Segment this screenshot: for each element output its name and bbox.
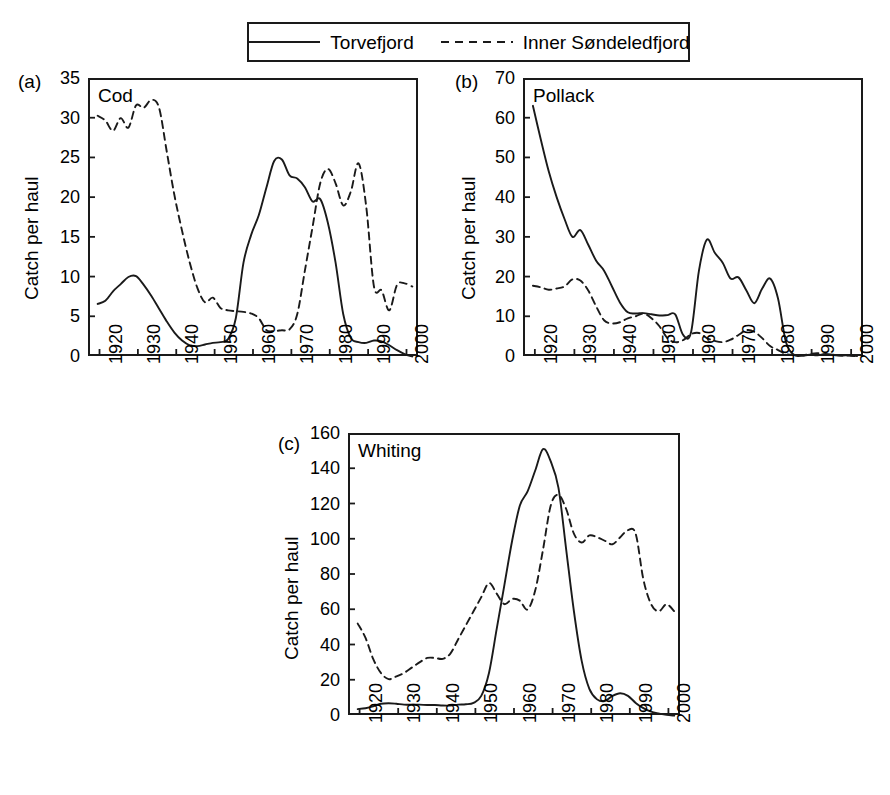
y-tick-label: 160 xyxy=(286,424,340,442)
y-tick-label: 80 xyxy=(286,565,340,583)
x-tick-label: 1960 xyxy=(521,683,539,723)
x-tick-label: 1920 xyxy=(367,683,385,723)
x-tick-label: 1970 xyxy=(560,683,578,723)
axis-ticks-whiting xyxy=(0,0,890,795)
y-tick-label: 140 xyxy=(286,459,340,477)
y-tick-label: 20 xyxy=(286,671,340,689)
x-tick-label: 1930 xyxy=(405,683,423,723)
y-tick-label: 60 xyxy=(286,600,340,618)
y-tick-label: 40 xyxy=(286,636,340,654)
x-tick-label: 1940 xyxy=(444,683,462,723)
x-tick-label: 1950 xyxy=(482,683,500,723)
y-tick-label: 0 xyxy=(286,706,340,724)
x-tick-label: 1980 xyxy=(598,683,616,723)
y-tick-label: 120 xyxy=(286,495,340,513)
x-tick-label: 2000 xyxy=(675,683,693,723)
x-tick-label: 1990 xyxy=(637,683,655,723)
y-tick-label: 100 xyxy=(286,530,340,548)
